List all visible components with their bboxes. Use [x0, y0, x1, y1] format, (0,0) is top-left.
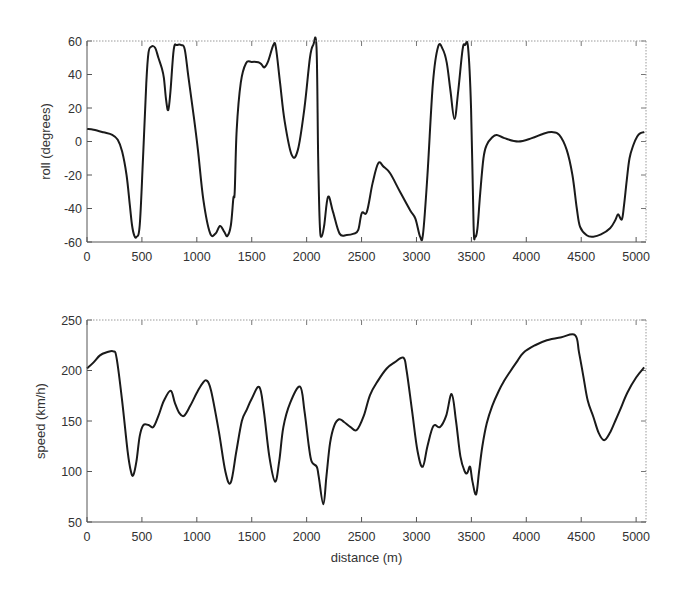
x-tick-label: 3500	[457, 250, 485, 264]
speed-plot-area	[87, 320, 646, 522]
y-tick-label: 60	[68, 35, 82, 49]
roll-y-axis-label: roll (degrees)	[38, 103, 53, 180]
x-tick-label: 2500	[348, 530, 376, 544]
y-tick-label: 150	[61, 415, 82, 429]
x-tick-label: 5000	[622, 530, 650, 544]
y-tick-label: 20	[68, 102, 82, 116]
x-tick-label: 3000	[403, 250, 431, 264]
x-tick-label: 1500	[238, 250, 266, 264]
x-tick-label: 500	[131, 530, 152, 544]
x-axis-label: distance (m)	[331, 550, 403, 565]
x-tick-label: 1000	[183, 530, 211, 544]
x-tick-label: 3500	[457, 530, 485, 544]
x-tick-label: 2000	[293, 530, 321, 544]
y-tick-label: 100	[61, 465, 82, 479]
speed-chart: 0500100015002000250030003500400045005000…	[33, 314, 650, 566]
speed-y-axis-label: speed (km/h)	[33, 383, 48, 459]
y-tick-label: 0	[75, 135, 82, 149]
x-tick-label: 2500	[348, 250, 376, 264]
y-tick-label: 40	[68, 68, 82, 82]
x-tick-label: 2000	[293, 250, 321, 264]
y-tick-label: -40	[64, 202, 82, 216]
x-tick-label: 4500	[567, 530, 595, 544]
x-tick-label: 0	[84, 530, 91, 544]
y-tick-label: -60	[64, 236, 82, 250]
x-tick-label: 5000	[622, 250, 650, 264]
x-tick-label: 3000	[403, 530, 431, 544]
figure: 0500100015002000250030003500400045005000…	[0, 0, 686, 602]
x-tick-label: 1000	[183, 250, 211, 264]
x-tick-label: 1500	[238, 530, 266, 544]
y-tick-label: 250	[61, 314, 82, 328]
x-tick-label: 4000	[512, 530, 540, 544]
y-tick-label: -20	[64, 169, 82, 183]
x-tick-label: 4000	[512, 250, 540, 264]
x-tick-label: 4500	[567, 250, 595, 264]
roll-chart: 0500100015002000250030003500400045005000…	[38, 35, 650, 265]
y-tick-label: 50	[68, 516, 82, 530]
x-tick-label: 0	[84, 250, 91, 264]
y-tick-label: 200	[61, 364, 82, 378]
x-tick-label: 500	[131, 250, 152, 264]
